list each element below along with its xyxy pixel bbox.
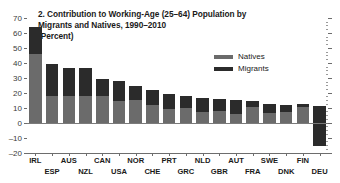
y-axis-minor-tick — [326, 82, 328, 83]
bar-segment-migrants — [163, 94, 176, 109]
bar-segment-migrants — [246, 101, 259, 107]
x-axis-label-che: CHE — [137, 167, 167, 176]
bar-segment-natives — [96, 96, 109, 122]
bar-column[interactable] — [246, 18, 259, 153]
y-axis-label: 70 — [2, 14, 22, 23]
bar-column[interactable] — [146, 18, 159, 153]
bar-segment-migrants — [113, 81, 126, 101]
x-axis-label-prt: PRT — [154, 156, 184, 165]
y-axis-tick-right — [328, 78, 332, 79]
chart-panel: 2. Contribution to Working-Age (25–64) P… — [0, 0, 340, 183]
y-axis-minor-tick — [326, 89, 328, 90]
bar-segment-natives — [46, 96, 59, 122]
bar-segment-natives — [29, 54, 42, 123]
x-axis-label-fin: FIN — [288, 156, 318, 165]
y-axis-minor-tick — [326, 119, 328, 120]
x-axis-tick — [320, 153, 321, 157]
bar-column[interactable] — [280, 18, 293, 153]
bar-column[interactable] — [263, 18, 276, 153]
bar-column[interactable] — [63, 18, 76, 153]
zero-baseline — [27, 123, 328, 124]
y-axis-label: 60 — [2, 28, 22, 37]
y-axis-tick-right — [328, 93, 332, 94]
x-axis-label-fra: FRA — [238, 167, 268, 176]
bar-segment-migrants — [146, 90, 159, 106]
y-axis-minor-tick — [326, 55, 328, 56]
bar-segment-natives — [213, 111, 226, 123]
y-axis-tick-right — [328, 138, 332, 139]
y-axis-minor-tick — [326, 52, 328, 53]
y-axis-label: 0 — [2, 118, 22, 127]
x-axis-label-usa: USA — [104, 167, 134, 176]
x-axis-label-deu: DEU — [305, 167, 335, 176]
y-axis-label: –10 — [2, 133, 22, 142]
y-axis-label: 50 — [2, 43, 22, 52]
legend-label-natives: Natives — [238, 52, 265, 62]
x-axis-label-aut: AUT — [221, 156, 251, 165]
y-axis-tick-right — [328, 153, 332, 154]
bar-column[interactable] — [230, 18, 243, 153]
y-axis-tick — [24, 48, 28, 49]
bar-segment-natives — [196, 112, 209, 122]
bar-column[interactable] — [46, 18, 59, 153]
x-axis-label-esp: ESP — [37, 167, 67, 176]
bar-segment-migrants — [313, 106, 326, 146]
bar-column[interactable] — [79, 18, 92, 153]
x-axis-label-swe: SWE — [254, 156, 284, 165]
x-axis-label-nzl: NZL — [71, 167, 101, 176]
bar-segment-migrants — [96, 79, 109, 97]
x-axis-label-can: CAN — [87, 156, 117, 165]
y-axis-minor-tick — [326, 44, 328, 45]
y-axis-tick-right — [328, 123, 332, 124]
y-axis-tick — [24, 78, 28, 79]
x-axis-label-irl: IRL — [20, 156, 50, 165]
y-axis-minor-tick — [326, 25, 328, 26]
bar-column[interactable] — [96, 18, 109, 153]
bar-column[interactable] — [213, 18, 226, 153]
bar-segment-natives — [246, 107, 259, 123]
bar-segment-migrants — [29, 27, 42, 54]
bar-segment-migrants — [46, 64, 59, 96]
y-axis-tick — [24, 138, 28, 139]
bar-segment-migrants — [129, 86, 142, 100]
y-axis-label: 30 — [2, 73, 22, 82]
bar-column[interactable] — [313, 18, 326, 153]
bar-segment-migrants — [230, 100, 243, 114]
bar-column[interactable] — [163, 18, 176, 153]
y-axis-tick — [24, 18, 28, 19]
bar-segment-natives — [146, 105, 159, 122]
y-axis-label: –20 — [2, 148, 22, 157]
y-axis-minor-tick — [326, 67, 328, 68]
bar-column[interactable] — [180, 18, 193, 153]
bar-column[interactable] — [196, 18, 209, 153]
y-axis-minor-tick — [326, 74, 328, 75]
plot-area: 706050403020100–10–20 IRLESPAUSNZLCANUSA… — [27, 18, 328, 153]
y-axis-label: 20 — [2, 88, 22, 97]
y-axis-tick-right — [328, 48, 332, 49]
bar-series-group — [27, 18, 328, 153]
bar-segment-migrants — [297, 104, 310, 107]
bar-column[interactable] — [129, 18, 142, 153]
legend-item-migrants: Migrants — [214, 64, 269, 74]
x-axis-label-grc: GRC — [171, 167, 201, 176]
y-axis-minor-tick — [326, 141, 328, 142]
bar-column[interactable] — [297, 18, 310, 153]
y-axis-minor-tick — [326, 115, 328, 116]
bar-segment-migrants — [79, 68, 92, 96]
legend-swatch-natives-icon — [214, 55, 233, 59]
bar-segment-migrants — [263, 104, 276, 113]
y-axis-minor-tick — [326, 130, 328, 131]
y-axis-minor-tick — [326, 134, 328, 135]
bar-segment-migrants — [63, 68, 76, 96]
bar-column[interactable] — [29, 18, 42, 153]
chart-legend: Natives Migrants — [214, 52, 269, 76]
y-axis-tick — [24, 93, 28, 94]
y-axis-minor-tick — [326, 85, 328, 86]
bar-segment-natives — [79, 96, 92, 123]
y-axis-tick-right — [328, 33, 332, 34]
y-axis-minor-tick — [326, 59, 328, 60]
y-axis-minor-tick — [326, 145, 328, 146]
y-axis-tick-right — [328, 63, 332, 64]
bar-column[interactable] — [113, 18, 126, 153]
bar-segment-migrants — [180, 96, 193, 108]
